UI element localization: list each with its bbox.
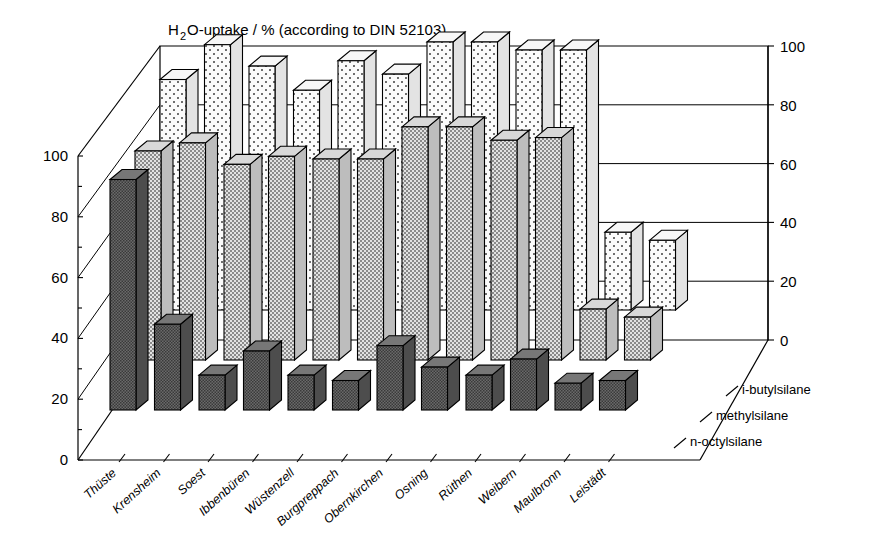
category-tick — [342, 454, 348, 462]
category-label: Krensheim — [110, 466, 164, 516]
right-axis-tick-label: 60 — [780, 156, 797, 173]
bar-side-face — [517, 130, 529, 360]
series-leader-tick — [674, 438, 686, 448]
bar-side-face — [295, 146, 307, 360]
chart-title: H 2 O-uptake / % (according to DIN 52103… — [168, 21, 446, 42]
axis-depth-top — [78, 46, 160, 156]
category-tick — [475, 454, 481, 462]
bar-front-face — [313, 159, 339, 360]
bar-front-face — [650, 240, 676, 310]
bar-front-face — [155, 324, 181, 410]
series-leader-tick — [700, 412, 712, 422]
category-label: Maulbronn — [511, 466, 564, 516]
bar-front-face — [536, 138, 562, 360]
category-tick — [297, 454, 303, 462]
category-label: Leistädt — [567, 465, 609, 505]
category-tick — [253, 454, 259, 462]
bar-front-face — [288, 375, 314, 410]
left-axis-tick-label: 80 — [51, 208, 68, 225]
category-label: Thüste — [81, 466, 119, 502]
bar-front-face — [625, 317, 651, 360]
category-label: Osning — [392, 466, 431, 503]
bar-side-face — [181, 314, 193, 410]
series-legend-label: n-octylsilane — [690, 434, 762, 449]
bar-front-face — [333, 381, 359, 410]
plot-area: 020406080100020406080100ThüsteKrensheimS… — [43, 32, 811, 529]
bar-front-face — [358, 159, 384, 360]
bar-side-face — [676, 230, 688, 310]
bar-front-face — [244, 351, 270, 410]
bar-front-face — [555, 383, 581, 410]
bar-side-face — [403, 336, 415, 410]
bar-front-face — [600, 381, 626, 410]
category-tick — [386, 454, 392, 462]
bar-side-face — [206, 133, 218, 360]
category-tick — [609, 454, 615, 462]
right-axis-tick-label: 20 — [780, 273, 797, 290]
bar-side-face — [473, 117, 485, 360]
series-legend-label: methylsilane — [716, 408, 788, 423]
bar-front-face — [491, 140, 517, 360]
series-legend-label: i-butylsilane — [742, 382, 811, 397]
category-tick — [119, 454, 125, 462]
category-tick — [431, 454, 437, 462]
bar-front-face — [605, 232, 631, 310]
bar-front-face — [269, 156, 295, 360]
category-tick — [564, 454, 570, 462]
left-axis-tick-label: 100 — [43, 147, 68, 164]
category-tick — [520, 454, 526, 462]
right-axis-tick-label: 80 — [780, 97, 797, 114]
category-tick — [164, 454, 170, 462]
bar-front-face — [377, 346, 403, 410]
left-axis-tick-label: 20 — [51, 390, 68, 407]
bar-front-face — [199, 375, 225, 410]
chart-figure: H 2 O-uptake / % (according to DIN 52103… — [0, 0, 871, 556]
bar-front-face — [224, 164, 250, 360]
left-axis-tick-label: 60 — [51, 269, 68, 286]
chart-title-pre: H — [168, 21, 179, 38]
bar-front-face — [447, 127, 473, 360]
bar-front-face — [422, 367, 448, 410]
bar-front-face — [110, 180, 136, 410]
category-tick — [208, 454, 214, 462]
bar-front-face — [580, 309, 606, 360]
bar-side-face — [136, 170, 148, 410]
bar-side-face — [428, 117, 440, 360]
bar-side-face — [384, 149, 396, 360]
right-axis-tick-label: 100 — [780, 38, 805, 55]
bar-front-face — [466, 375, 492, 410]
category-label: Rüthen — [436, 466, 475, 503]
chart-title-subscript: 2 — [180, 30, 186, 42]
bar-side-face — [587, 40, 599, 310]
bar-side-face — [250, 154, 262, 360]
bar-side-face — [270, 341, 282, 410]
bar-front-face — [402, 127, 428, 360]
bar-side-face — [339, 149, 351, 360]
left-axis-tick-label: 40 — [51, 329, 68, 346]
category-label: Weibern — [476, 466, 520, 507]
chart-canvas: H 2 O-uptake / % (according to DIN 52103… — [0, 0, 871, 556]
bar-side-face — [562, 128, 574, 360]
bar-front-face — [511, 359, 537, 410]
series-leader-tick — [726, 386, 738, 396]
left-axis-tick-label: 0 — [60, 451, 68, 468]
bar-side-face — [631, 222, 643, 310]
right-axis-tick-label: 0 — [780, 332, 788, 349]
category-label: Soest — [175, 465, 209, 497]
right-axis-tick-label: 40 — [780, 214, 797, 231]
